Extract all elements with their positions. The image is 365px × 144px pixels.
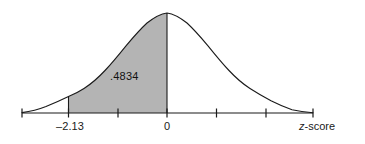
shaded-area-region <box>69 13 168 113</box>
x-axis-tick-label-neg-2-13: –2.13 <box>47 120 93 132</box>
x-axis-title-suffix: -score <box>305 120 336 132</box>
x-axis-title: z-score <box>299 120 335 132</box>
x-axis-tick-label-zero: 0 <box>152 120 182 132</box>
shaded-area-value-label: .4834 <box>110 70 139 82</box>
normal-distribution-figure: .4834 –2.13 0 z-score <box>0 0 365 144</box>
